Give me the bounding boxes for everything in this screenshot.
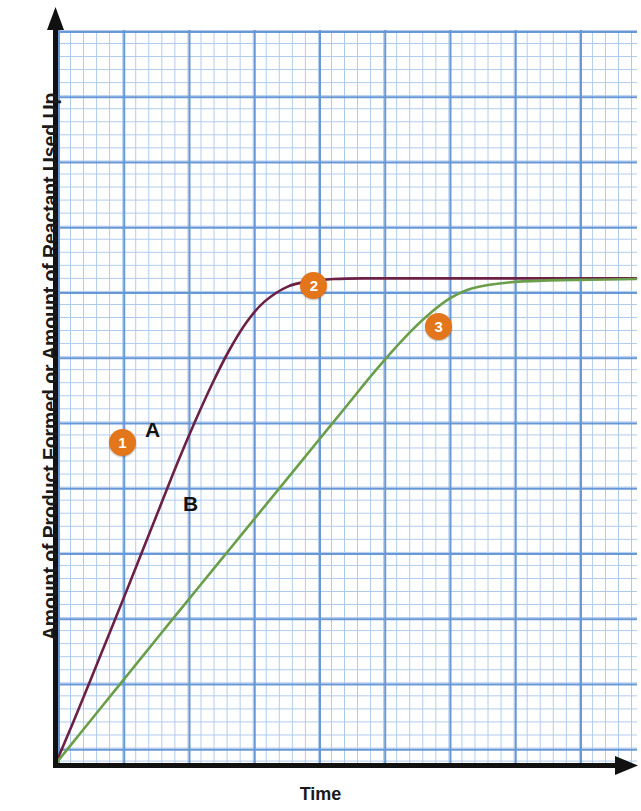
plot-area	[57, 30, 637, 765]
annotation-marker-3[interactable]: 3	[425, 313, 452, 340]
series-b-label: B	[183, 493, 198, 514]
series-a-label: A	[145, 419, 160, 440]
y-axis-title: Amount of Product Formed or Amount of Re…	[39, 17, 62, 717]
x-axis-title: Time	[0, 784, 641, 805]
grid-major-lines	[57, 30, 637, 765]
chart-figure: Amount of Product Formed or Amount of Re…	[0, 0, 641, 811]
annotation-marker-2[interactable]: 2	[300, 272, 327, 299]
annotation-marker-1[interactable]: 1	[109, 429, 136, 456]
